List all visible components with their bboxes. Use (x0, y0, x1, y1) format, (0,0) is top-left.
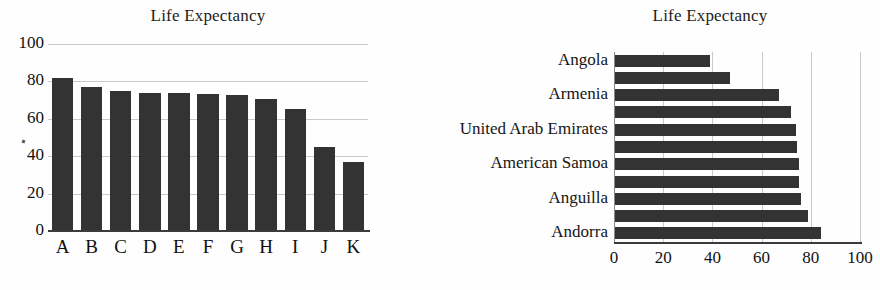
x-tick-label-G: G (223, 236, 252, 258)
y-axis-line-right (614, 52, 615, 242)
category-label-anguilla: Anguilla (549, 188, 609, 208)
bar-K (343, 162, 365, 231)
bar-american-samoa (614, 158, 799, 170)
gridline-x-100 (860, 52, 861, 242)
category-label-angola: Angola (558, 50, 608, 70)
bar-C (110, 91, 132, 231)
x-tick-label-H: H (252, 236, 281, 258)
bar-F (197, 94, 219, 231)
bar-angola (614, 55, 710, 67)
x-tick-label-J: J (310, 236, 339, 258)
gridline-y-80 (48, 81, 368, 82)
x-axis-line-right (614, 242, 862, 244)
x-tick-label-B: B (77, 236, 106, 258)
x-tick-label-F: F (193, 236, 222, 258)
bar-D (139, 93, 161, 231)
bar-B (81, 87, 103, 231)
bar-I (285, 109, 307, 231)
x-tick-label-A: A (48, 236, 77, 258)
x-tick-label-K: K (339, 236, 368, 258)
y-tick-label-80: 80 (0, 70, 44, 90)
plot-area-left (48, 44, 368, 231)
bar-E (168, 93, 190, 231)
x-tick-label-C: C (106, 236, 135, 258)
x-tick-label-I: I (281, 236, 310, 258)
bar-row-10 (614, 210, 808, 222)
x-axis-line-left (48, 230, 370, 232)
x-tick-label-100: 100 (830, 248, 880, 268)
horizontal-bar-chart: Life Expectancy AngolaArmeniaUnited Arab… (400, 0, 880, 290)
bar-armenia (614, 89, 779, 101)
category-label-united-arab-emirates: United Arab Emirates (460, 119, 608, 139)
chart-title-right: Life Expectancy (560, 6, 860, 26)
bar-andorra (614, 227, 821, 239)
y-tick-label-20: 20 (0, 183, 44, 203)
x-tick-label-D: D (135, 236, 164, 258)
chart-title-left: Life Expectancy (48, 6, 368, 26)
bar-row-8 (614, 176, 799, 188)
plot-area-right (614, 52, 860, 242)
bar-row-2 (614, 72, 730, 84)
y-tick-label-60: 60 (0, 108, 44, 128)
bar-G (226, 95, 248, 232)
x-tick-label-E: E (164, 236, 193, 258)
bar-row-6 (614, 141, 797, 153)
y-tick-label-0: 0 (0, 220, 44, 240)
bar-J (314, 147, 336, 231)
figure-canvas: Life Expectancy 020406080100 ABCDEFGHIJK… (0, 0, 880, 290)
category-label-armenia: Armenia (549, 84, 608, 104)
category-label-andorra: Andorra (551, 222, 608, 242)
gridline-x-80 (811, 52, 812, 242)
gridline-y-100 (48, 44, 368, 45)
y-tick-label-100: 100 (0, 33, 44, 53)
bar-H (255, 99, 277, 231)
bar-row-4 (614, 106, 791, 118)
bar-A (52, 78, 74, 231)
bar-united-arab-emirates (614, 124, 796, 136)
vertical-bar-chart: Life Expectancy 020406080100 ABCDEFGHIJK (0, 0, 400, 290)
scan-artifact-mark (22, 140, 26, 144)
category-label-american-samoa: American Samoa (490, 153, 608, 173)
y-tick-label-40: 40 (0, 145, 44, 165)
bar-anguilla (614, 193, 801, 205)
